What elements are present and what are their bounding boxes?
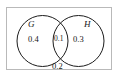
value-h-only: 0.3: [73, 35, 84, 44]
value-intersection: 0.1: [54, 35, 63, 43]
value-outside-sets: 0.2: [52, 62, 63, 71]
value-g-only: 0.4: [28, 35, 39, 44]
set-label-h: H: [84, 20, 91, 29]
venn-diagram-figure: G H 0.4 0.1 0.3 0.2: [0, 0, 120, 78]
set-label-g: G: [28, 20, 35, 29]
